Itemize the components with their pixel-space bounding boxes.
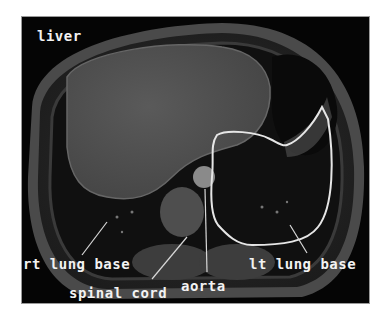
- mri-image: liver rt lung base lt lung base spinal c…: [21, 16, 370, 304]
- label-spinal-cord: spinal cord: [69, 286, 167, 300]
- label-aorta: aorta: [181, 279, 226, 293]
- label-liver: liver: [37, 29, 82, 43]
- label-rt-lung-base: rt lung base: [23, 257, 130, 271]
- label-lt-lung-base: lt lung base: [249, 257, 356, 271]
